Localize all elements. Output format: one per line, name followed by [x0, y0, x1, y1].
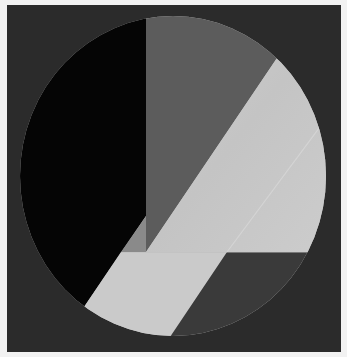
artwork-canvas [0, 0, 347, 357]
